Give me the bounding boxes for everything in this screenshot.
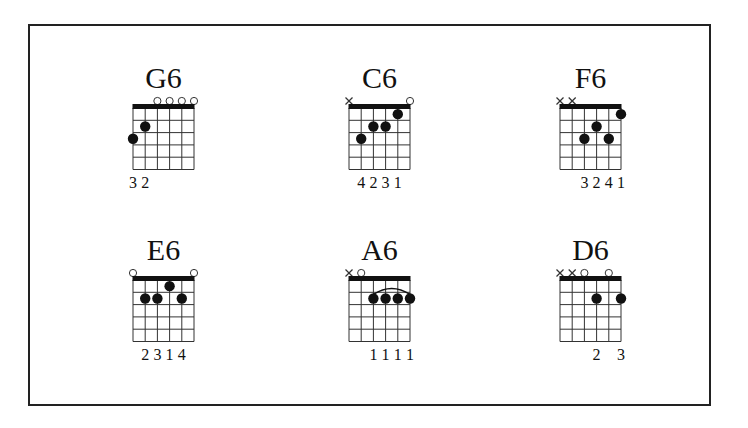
muted-string-icon [557,98,564,105]
chord-diagram-a6: A61111 [346,233,416,363]
finger-dot [579,134,589,144]
finger-dot [128,134,138,144]
finger-dot [616,293,626,303]
finger-dot [380,121,390,131]
chord-diagram-g6: G632 [128,61,198,191]
muted-string-icon [569,98,576,105]
fretboard-grid [560,280,621,342]
muted-string-icon [569,270,576,277]
finger-number: 4 [178,346,186,363]
finger-dot [604,134,614,144]
finger-number: 1 [369,346,377,363]
chord-diagram-c6: C64231 [346,61,414,191]
finger-dot [591,121,601,131]
finger-number: 1 [394,174,402,191]
open-string-icon [178,97,185,104]
nut [560,276,622,281]
finger-dot [405,293,415,303]
finger-dot [140,121,150,131]
nut [133,104,195,109]
open-string-icon [406,97,413,104]
finger-dot [616,109,626,119]
chord-diagram-e6: E62314 [129,233,197,363]
finger-dot [380,293,390,303]
open-string-icon [605,269,612,276]
finger-number: 2 [593,174,601,191]
chord-name: D6 [572,233,609,266]
chord-diagram-d6: D623 [557,233,627,363]
nut [349,276,411,281]
finger-number: 4 [605,174,613,191]
muted-string-icon [346,270,353,277]
finger-dot [164,281,174,291]
finger-dot [393,293,403,303]
finger-number: 2 [369,174,377,191]
finger-number: 1 [394,346,402,363]
open-string-icon [154,97,161,104]
finger-number: 1 [382,346,390,363]
finger-number: 4 [357,174,365,191]
chord-name: A6 [361,233,398,266]
open-string-icon [581,269,588,276]
chord-diagram-f6: F63241 [557,61,627,191]
open-string-icon [190,269,197,276]
finger-dot [393,109,403,119]
muted-string-icon [346,98,353,105]
nut [349,104,411,109]
finger-dot [140,293,150,303]
open-string-icon [166,97,173,104]
finger-number: 3 [617,346,625,363]
open-string-icon [358,269,365,276]
finger-number: 2 [141,174,149,191]
finger-dot [591,293,601,303]
finger-number: 3 [129,174,137,191]
fretboard-grid [133,280,194,342]
finger-number: 3 [382,174,390,191]
chord-name: C6 [362,61,397,94]
finger-dot [177,293,187,303]
open-string-icon [129,269,136,276]
finger-dot [368,121,378,131]
nut [133,276,195,281]
nut [560,104,622,109]
finger-number: 3 [153,346,161,363]
finger-number: 1 [617,174,625,191]
chord-name: E6 [147,233,180,266]
finger-number: 2 [593,346,601,363]
chord-name: F6 [575,61,607,94]
finger-number: 2 [141,346,149,363]
finger-number: 1 [406,346,414,363]
finger-dot [152,293,162,303]
chord-chart: G632C64231F63241E62314A61111D623 [0,0,748,428]
open-string-icon [190,97,197,104]
finger-dot [368,293,378,303]
chord-name: G6 [145,61,182,94]
muted-string-icon [557,270,564,277]
finger-number: 3 [580,174,588,191]
finger-number: 1 [166,346,174,363]
barre-arc-icon [373,288,410,294]
fretboard-grid [133,108,194,170]
finger-dot [356,134,366,144]
